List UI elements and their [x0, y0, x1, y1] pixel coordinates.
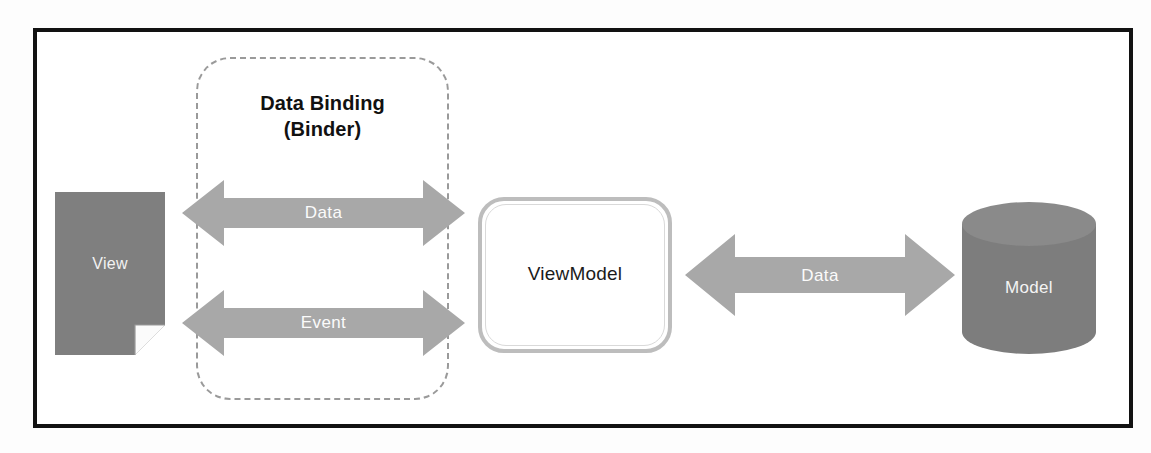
view-node-label: View — [55, 255, 165, 273]
viewmodel-node-label: ViewModel — [478, 263, 672, 285]
data-arrow-view-viewmodel-label: Data — [182, 203, 465, 223]
view-node[interactable] — [55, 192, 165, 355]
event-arrow-view-viewmodel-label: Event — [182, 313, 465, 333]
data-binding-label: Data Binding (Binder) — [196, 90, 449, 142]
data-binding-label-line1: Data Binding — [196, 90, 449, 116]
data-arrow-viewmodel-model-label: Data — [685, 266, 955, 286]
diagram-canvas: Data Binding (Binder) View Data Event Vi… — [0, 0, 1151, 453]
data-binding-label-line2: (Binder) — [196, 116, 449, 142]
model-node-label: Model — [962, 278, 1096, 298]
